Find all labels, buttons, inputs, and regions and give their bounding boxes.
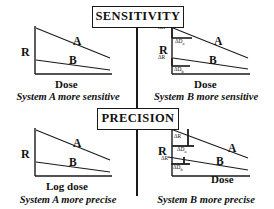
delta-d-label-b: ΔDb: [173, 165, 183, 173]
delta-d-label-a: ΔDa: [175, 39, 184, 47]
curve-label-b: B: [209, 55, 217, 67]
y-axis-label: R: [21, 148, 30, 160]
section-header-sensitivity: SENSITIVITY: [92, 6, 184, 28]
curve-label-a: A: [228, 143, 236, 155]
section-header-precision: PRECISION: [97, 108, 179, 130]
panel-top-right: ΔR ΔDa ΔR ΔDb R A B Dose System B more s…: [138, 22, 274, 102]
caption-top-left: System A more sensitive: [0, 92, 136, 103]
delta-d-label-b: ΔDb: [174, 67, 184, 75]
x-axis-label: Dose: [194, 79, 217, 90]
delta-r-label-a: ΔR: [174, 134, 181, 140]
curve-label-b: B: [216, 156, 224, 168]
panel-bottom-left: R A B Log dose System A more precise: [0, 124, 136, 209]
delta-d-label-a: ΔDa: [177, 147, 186, 155]
curve-label-a: A: [214, 36, 222, 48]
x-axis-label: Dose: [211, 174, 234, 185]
curve-label-b: B: [69, 55, 77, 67]
x-axis-label: Log dose: [46, 181, 88, 192]
y-axis-label: R: [21, 46, 30, 58]
caption-bottom-right: System B more precise: [138, 195, 274, 206]
panel-top-left: R A B Dose System A more sensitive: [0, 22, 136, 102]
y-axis-label: R: [159, 44, 168, 56]
figure-root: SENSITIVITY PRECISION R A B Dose System …: [0, 0, 274, 209]
curve-label-a: A: [73, 138, 81, 150]
panel-bottom-right: ΔR ΔDa ΔR ΔDb R A B Dose System B more p…: [138, 124, 274, 209]
y-axis-label: R: [158, 145, 167, 157]
caption-bottom-left: System A more precise: [0, 195, 136, 206]
caption-top-right: System B more sensitive: [138, 92, 274, 103]
curve-label-b: B: [69, 157, 77, 169]
x-axis-label: Dose: [55, 79, 78, 90]
curve-label-a: A: [73, 36, 81, 48]
